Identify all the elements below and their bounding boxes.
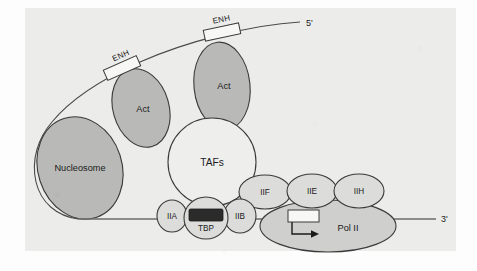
tfiib-complex[interactable]: IIB bbox=[224, 199, 256, 233]
transcription-complex-diagram: Nucleosome Act Act ENH ENH 5' TAFs bbox=[0, 0, 477, 271]
enhancer-2-box bbox=[203, 23, 241, 41]
activator-1-label: Act bbox=[136, 104, 150, 114]
figure-page: Nucleosome Act Act ENH ENH 5' TAFs bbox=[0, 0, 477, 271]
tfiie-label: IIE bbox=[307, 187, 318, 196]
tfiie-complex[interactable]: IIE bbox=[287, 174, 337, 208]
polymerase-label: Pol II bbox=[338, 223, 359, 233]
tfiia-complex[interactable]: IIA bbox=[157, 200, 187, 232]
tafs-label: TAFs bbox=[200, 157, 224, 168]
three-prime-label: 3' bbox=[441, 214, 448, 224]
polymerase-complex[interactable]: Pol II bbox=[260, 200, 396, 252]
tfiih-complex[interactable]: IIH bbox=[334, 174, 384, 208]
tbp-complex[interactable]: TBP bbox=[184, 197, 228, 239]
five-prime-label: 5' bbox=[306, 18, 313, 28]
enhancer-2[interactable] bbox=[203, 23, 241, 41]
nucleosome-label: Nucleosome bbox=[54, 163, 105, 173]
tfiia-label: IIA bbox=[167, 212, 178, 221]
enhancer-2-label: ENH bbox=[212, 13, 231, 26]
tfiif-label: IIF bbox=[260, 188, 270, 197]
tbp-label: TBP bbox=[198, 224, 214, 233]
tfiih-label: IIH bbox=[354, 187, 365, 196]
dna-upstream-curve bbox=[52, 22, 300, 122]
tbp-dna-block bbox=[189, 209, 223, 221]
activator-2-label: Act bbox=[217, 81, 231, 91]
transcription-start-box[interactable] bbox=[288, 210, 319, 222]
tfiib-label: IIB bbox=[235, 212, 246, 221]
polymerase-body bbox=[260, 200, 396, 252]
